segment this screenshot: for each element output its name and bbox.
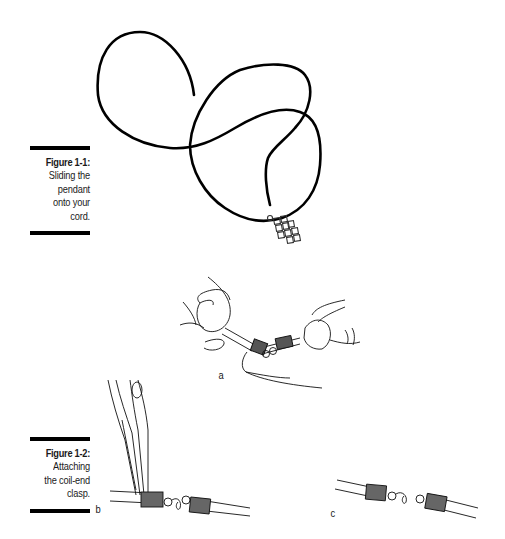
illustrations xyxy=(0,0,505,539)
cord-with-pendant-illustration xyxy=(98,32,321,221)
panel-label-b: b xyxy=(95,503,100,515)
endless-knot-pendant-icon xyxy=(268,216,301,244)
panel-label-c: c xyxy=(330,507,335,519)
panel-label-a: a xyxy=(218,369,223,381)
pliers-closing-coil-illustration xyxy=(108,380,250,516)
hands-holding-clasp-illustration xyxy=(180,277,360,388)
finished-clasp-illustration xyxy=(335,480,478,518)
